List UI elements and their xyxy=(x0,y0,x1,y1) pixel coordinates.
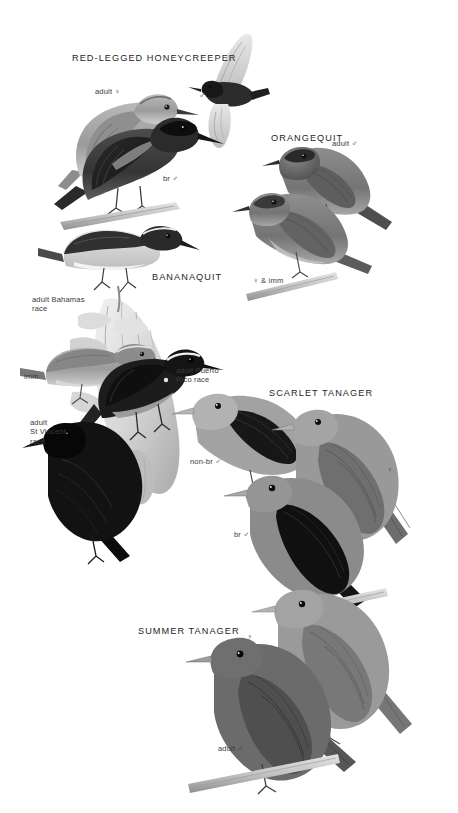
plumage-label-scarlet-non-breeding-male: non-br ♂ xyxy=(190,458,221,467)
plumage-label-orangequit-female-imm: ♀ & imm xyxy=(253,277,283,286)
species-heading-scarlet-tanager: SCARLET TANAGER xyxy=(269,388,373,398)
bird-plate-illustration xyxy=(0,0,458,813)
species-heading-summer-tanager: SUMMER TANAGER xyxy=(138,626,240,636)
plumage-label-bananaquit-adult-bahamas: adult Bahamas race xyxy=(32,295,85,314)
plumage-label-scarlet-female: ♀ xyxy=(387,466,393,475)
plumage-label-orangequit-adult-male: adult ♂ xyxy=(332,140,357,149)
plumage-label-bananaquit-adult-st-vincent: adult St Vincent race xyxy=(30,418,66,446)
plumage-label-bananaquit-imm: imm xyxy=(24,373,39,382)
plumage-label-honeycreeper-flying-male: ♂ xyxy=(199,92,205,101)
plumage-label-summer-adult-male: adult ♂ xyxy=(218,745,243,754)
plumage-label-scarlet-breeding-male: br ♂ xyxy=(234,531,249,540)
plumage-label-summer-female: ♀ xyxy=(247,633,253,642)
plumage-label-honeycreeper-adult-female: adult ♀ xyxy=(95,88,120,97)
species-heading-bananaquit: BANANAQUIT xyxy=(152,272,222,282)
plumage-label-honeycreeper-breeding-male: br ♂ xyxy=(163,175,178,184)
species-heading-red-legged-honeycreeper: RED-LEGGED HONEYCREEPER xyxy=(72,53,237,63)
honeycreeper-perch-branch xyxy=(60,202,180,230)
plumage-label-bananaquit-adult-puerto-rico: adult Puerto Rico race xyxy=(176,366,219,385)
